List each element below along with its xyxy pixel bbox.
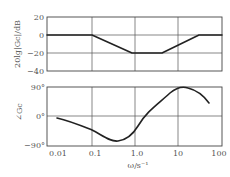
phase-curve [57, 87, 209, 141]
phase-ylabel: ∠Gc [15, 103, 24, 121]
bode-plot: 20 0 −20 −40 20lg|Gc|/dB 90° 0° −90° ∠Gc… [0, 0, 230, 177]
mag-ytick-minus40: −40 [27, 67, 44, 76]
magnitude-frame [47, 17, 222, 71]
xtick-100: 100 [211, 149, 226, 158]
phase-ytick-minus90: −90° [24, 141, 45, 150]
mag-ytick-20: 20 [34, 13, 44, 22]
mag-ytick-minus20: −20 [27, 49, 44, 58]
xtick-1.0: 1.0 [131, 149, 144, 158]
x-axis: 0.01 0.1 1.0 10 100 ω/s⁻¹ [49, 149, 227, 170]
mag-ylabel: 20lg|Gc|/dB [13, 20, 22, 68]
xtick-10: 10 [173, 149, 183, 158]
phase-ytick-0: 0° [36, 112, 45, 121]
magnitude-plot: 20 0 −20 −40 20lg|Gc|/dB [13, 13, 222, 76]
xtick-0.1: 0.1 [89, 149, 102, 158]
phase-ytick-90: 90° [31, 83, 45, 92]
magnitude-curve [47, 35, 222, 53]
phase-plot: 90° 0° −90° ∠Gc [15, 83, 222, 150]
xtick-0.01: 0.01 [49, 149, 67, 158]
x-axis-label: ω/s⁻¹ [128, 161, 149, 170]
phase-frame [47, 87, 222, 146]
mag-ytick-0: 0 [39, 31, 44, 40]
